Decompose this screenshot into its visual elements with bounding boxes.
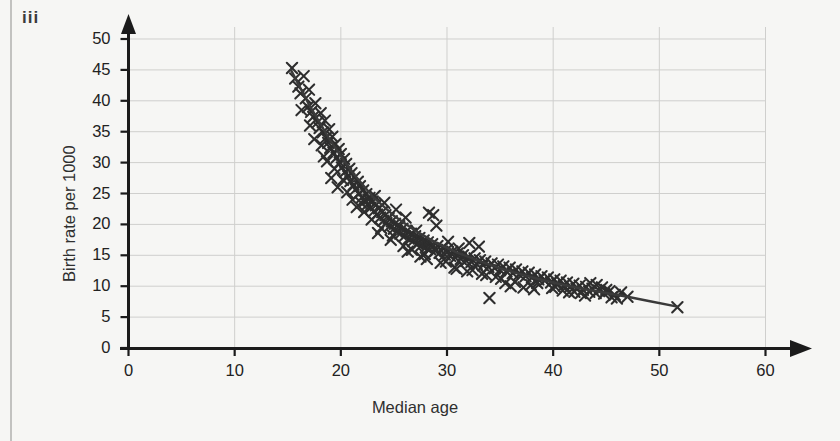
x-tick-label: 60 [746,361,786,380]
y-tick-label: 0 [77,338,111,357]
x-tick-label: 50 [639,361,679,380]
y-tick-label: 40 [77,91,111,110]
y-axis-arrowhead [121,14,136,34]
x-tick-label: 0 [109,361,149,380]
data-point-marker [338,175,348,185]
data-point-marker [484,293,494,303]
data-point-marker [326,173,336,183]
x-tick-label: 10 [215,361,255,380]
y-tick-label: 50 [77,29,111,48]
data-point-marker [428,210,438,220]
x-tick-label: 40 [533,361,573,380]
y-tick-label: 10 [77,276,111,295]
data-point-marker [373,228,383,238]
data-point-marker [298,71,308,81]
figure-page: ggg iii 05101520253035404550010203040506… [0,0,840,441]
data-point-marker [464,238,474,248]
axis-lines [120,14,812,357]
x-axis-title: Median age [0,398,840,417]
y-tick-label: 20 [77,214,111,233]
data-point-marker [322,156,332,166]
axis-tick-marks [121,39,766,356]
y-axis-title: Birth rate per 1000 [60,145,79,282]
y-tick-label: 5 [77,307,111,326]
data-point-marker [366,214,376,224]
data-point-marker [474,241,484,251]
y-tick-label: 25 [77,184,111,203]
y-tick-label: 45 [77,60,111,79]
data-point-marker [431,220,441,230]
x-tick-label: 20 [321,361,361,380]
x-tick-label: 30 [427,361,467,380]
gridlines [129,27,766,348]
data-point-markers [287,63,683,313]
y-tick-label: 35 [77,122,111,141]
y-tick-label: 15 [77,245,111,264]
y-tick-label: 30 [77,153,111,172]
x-axis-arrowhead [790,340,812,357]
